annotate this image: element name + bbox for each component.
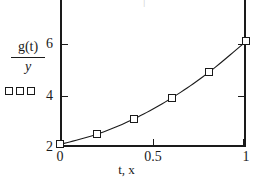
y-tick-4 <box>61 96 68 97</box>
y-tick-4-right <box>238 96 245 97</box>
fraction-bar <box>11 57 45 58</box>
y-tick-6 <box>61 44 68 45</box>
x-tick-1 <box>243 139 244 146</box>
x-tick-0-5 <box>153 139 154 146</box>
right-axis-line <box>244 0 246 147</box>
data-point-marker <box>205 68 213 76</box>
y-axis-label-denominator: y <box>4 59 52 74</box>
y-axis-line <box>60 0 62 147</box>
y-tick-label-6: 6 <box>33 37 53 51</box>
y-tick-label-4: 4 <box>33 89 53 103</box>
x-axis-title: t, x <box>0 163 253 176</box>
data-point-marker <box>56 140 64 148</box>
chart-figure: g(t) y | 6 4 2 0 0.5 1 t, x <box>0 0 253 183</box>
data-point-marker <box>93 130 101 138</box>
data-point-marker <box>242 37 250 45</box>
data-point-marker <box>168 94 176 102</box>
legend-square-marker <box>5 87 13 95</box>
plot-area <box>60 0 246 147</box>
data-point-marker <box>130 115 138 123</box>
legend-square-marker <box>16 87 24 95</box>
x-tick-label-0: 0 <box>45 150 75 164</box>
x-tick-label-0-5: 0.5 <box>138 150 168 164</box>
x-tick-label-1: 1 <box>231 150 253 164</box>
